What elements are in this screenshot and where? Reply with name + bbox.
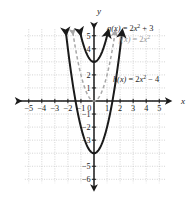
x-tick-label: −4	[37, 104, 46, 113]
y-tick-label: 4	[87, 45, 91, 54]
y-tick-label: 2	[87, 71, 91, 80]
x-tick-label: 2	[118, 104, 122, 113]
y-tick-label: −1	[82, 110, 91, 119]
annotation-h: h(x) = 2x2 − 4	[113, 74, 160, 84]
x-axis-label: x	[180, 96, 185, 106]
annotation-f: f(x) = 2x2	[119, 34, 150, 44]
y-axis-label: y	[96, 6, 101, 16]
x-tick-label: 4	[144, 104, 148, 113]
x-tick-label: −5	[24, 104, 33, 113]
y-tick-label: −3	[82, 136, 91, 145]
y-tick-label: −6	[82, 175, 91, 184]
x-tick-label: −3	[50, 104, 59, 113]
annotation-g: g(x) = 2x2 + 3	[107, 23, 153, 33]
y-tick-label: −2	[82, 123, 91, 132]
y-tick-label: 5	[87, 32, 91, 41]
x-tick-label: −2	[64, 104, 73, 113]
x-tick-label: 3	[131, 104, 135, 113]
parabola-transformations-figure: −5−4−3−2−10123455421−1−2−3−5−6 x y f(x) …	[0, 0, 191, 206]
y-tick-label: 1	[87, 84, 91, 93]
graph-canvas: −5−4−3−2−10123455421−1−2−3−5−6 x y f(x) …	[0, 0, 191, 206]
x-tick-label: 5	[157, 104, 161, 113]
y-tick-label: −5	[82, 162, 91, 171]
x-tick-label: 1	[105, 104, 109, 113]
